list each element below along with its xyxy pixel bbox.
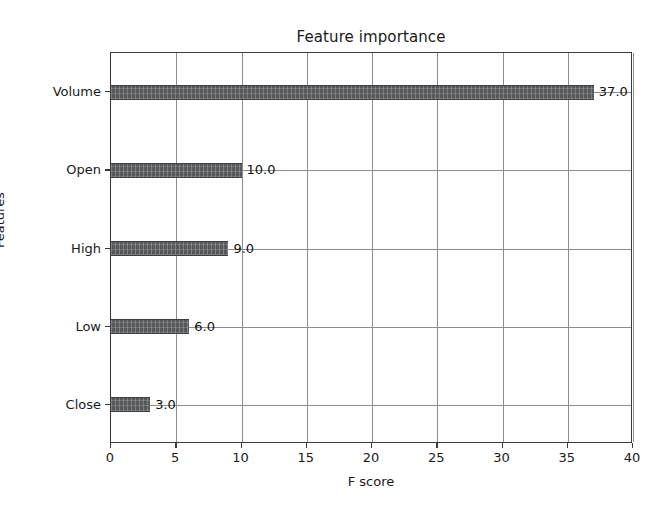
- ytick-mark: [105, 169, 110, 170]
- xtick-label-40: 40: [624, 450, 641, 465]
- value-label-open: 10.0: [247, 162, 276, 177]
- ytick-mark: [105, 248, 110, 249]
- plot-area: [110, 52, 632, 443]
- ytick-label-volume: Volume: [53, 84, 101, 99]
- xtick-mark: [175, 443, 176, 448]
- xtick-mark: [436, 443, 437, 448]
- ytick-label-low: Low: [75, 318, 101, 333]
- xtick-label-35: 35: [558, 450, 575, 465]
- value-label-high: 9.0: [233, 240, 254, 255]
- gridline-vertical: [372, 53, 373, 442]
- xtick-label-0: 0: [106, 450, 114, 465]
- ytick-label-high: High: [71, 240, 101, 255]
- ytick-label-close: Close: [66, 396, 101, 411]
- gridline-vertical: [503, 53, 504, 442]
- value-label-close: 3.0: [155, 396, 176, 411]
- y-axis-label: Features: [0, 192, 7, 248]
- bar-high: [111, 241, 228, 256]
- xtick-mark: [502, 443, 503, 448]
- value-label-volume: 37.0: [599, 84, 628, 99]
- xtick-label-30: 30: [493, 450, 510, 465]
- gridline-vertical: [307, 53, 308, 442]
- ytick-label-open: Open: [66, 162, 101, 177]
- value-label-low: 6.0: [194, 318, 215, 333]
- ytick-mark: [105, 404, 110, 405]
- bar-close: [111, 397, 150, 412]
- chart-title: Feature importance: [110, 28, 632, 46]
- feature-importance-chart: Feature importance 3.06.09.010.037.0 Clo…: [0, 0, 657, 520]
- xtick-mark: [110, 443, 111, 448]
- ytick-mark: [105, 326, 110, 327]
- xtick-mark: [567, 443, 568, 448]
- xtick-label-10: 10: [232, 450, 249, 465]
- bar-volume: [111, 85, 594, 100]
- xtick-label-20: 20: [363, 450, 380, 465]
- xtick-label-15: 15: [297, 450, 314, 465]
- xtick-label-25: 25: [428, 450, 445, 465]
- bar-open: [111, 163, 242, 178]
- xtick-mark: [241, 443, 242, 448]
- xtick-mark: [371, 443, 372, 448]
- xtick-mark: [306, 443, 307, 448]
- xtick-label-5: 5: [171, 450, 179, 465]
- gridline-vertical: [568, 53, 569, 442]
- gridline-vertical: [633, 53, 634, 442]
- x-axis-label: F score: [110, 474, 632, 489]
- bar-low: [111, 319, 189, 334]
- xtick-mark: [632, 443, 633, 448]
- gridline-horizontal: [111, 405, 631, 406]
- ytick-mark: [105, 91, 110, 92]
- gridline-vertical: [437, 53, 438, 442]
